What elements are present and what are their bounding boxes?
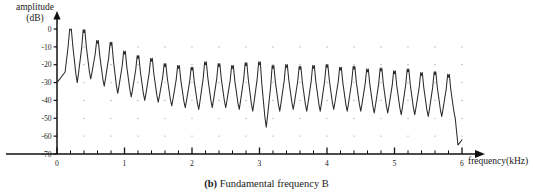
grid-dot — [434, 64, 435, 65]
y-tick-label: -70 — [41, 150, 51, 159]
y-tick-label: -30 — [41, 78, 51, 87]
grid-dot — [461, 64, 462, 65]
grid-dot — [137, 82, 138, 83]
grid-dot — [110, 100, 111, 101]
grid-dot — [380, 64, 381, 65]
x-tick-label: 5 — [393, 159, 397, 168]
grid-dot — [326, 135, 327, 136]
grid-dot — [137, 135, 138, 136]
grid-dot — [218, 118, 219, 119]
grid-dot — [353, 135, 354, 136]
grid-dot — [407, 64, 408, 65]
grid-dot — [434, 135, 435, 136]
grid-dot — [164, 118, 165, 119]
grid-dot — [218, 135, 219, 136]
grid-dot — [434, 100, 435, 101]
grid-dot — [218, 82, 219, 83]
grid-dot — [83, 64, 84, 65]
x-tick-label: 4 — [325, 159, 329, 168]
grid-dot — [83, 82, 84, 83]
grid-dot — [191, 135, 192, 136]
grid-dot — [326, 118, 327, 119]
grid-dot — [110, 135, 111, 136]
grid-dot — [380, 46, 381, 47]
grid-dot — [461, 118, 462, 119]
spectrum-plot: 0-10-20-30-40-50-60-700123456 — [0, 0, 533, 196]
figure-container: amplitude (dB) frequency(kHz) (b) Fundam… — [0, 0, 533, 196]
grid-dot — [191, 118, 192, 119]
grid-dot — [218, 100, 219, 101]
grid-dot — [299, 64, 300, 65]
grid-dot — [353, 82, 354, 83]
grid-dot — [353, 100, 354, 101]
grid-dot — [110, 82, 111, 83]
x-axis-arrow-icon — [475, 150, 485, 158]
grid-dot — [110, 46, 111, 47]
grid-dot — [326, 82, 327, 83]
grid-dot — [407, 135, 408, 136]
grid-dot — [353, 64, 354, 65]
y-tick-label: -60 — [41, 132, 51, 141]
grid-dot — [83, 135, 84, 136]
grid-dot — [83, 46, 84, 47]
x-tick-label: 1 — [123, 159, 127, 168]
grid-dot — [272, 82, 273, 83]
grid-dot — [272, 100, 273, 101]
grid-dot — [272, 46, 273, 47]
grid-dot — [299, 135, 300, 136]
grid-dot — [83, 100, 84, 101]
spectrum-curve — [57, 29, 462, 145]
grid-dot — [83, 118, 84, 119]
grid-dot — [380, 135, 381, 136]
grid-dot — [299, 46, 300, 47]
x-tick-label: 2 — [190, 159, 194, 168]
y-tick-label: -10 — [41, 43, 51, 52]
y-tick-label: 0 — [48, 25, 52, 34]
grid-dot — [434, 82, 435, 83]
grid-dot — [407, 118, 408, 119]
grid-dot — [326, 46, 327, 47]
grid-dot — [461, 135, 462, 136]
grid-dot — [191, 46, 192, 47]
grid-dot — [245, 82, 246, 83]
grid-dot — [164, 46, 165, 47]
grid-dot — [299, 118, 300, 119]
grid-dot — [434, 118, 435, 119]
grid-dot — [272, 118, 273, 119]
grid-dot — [164, 135, 165, 136]
grid-dot — [380, 82, 381, 83]
grid-dot — [110, 64, 111, 65]
grid-dot — [272, 135, 273, 136]
grid-dot — [245, 100, 246, 101]
grid-dot — [407, 82, 408, 83]
grid-dot — [353, 46, 354, 47]
y-tick-label: -20 — [41, 60, 51, 69]
grid-dot — [137, 64, 138, 65]
grid-dot — [326, 100, 327, 101]
grid-dot — [380, 100, 381, 101]
y-tick-label: -40 — [41, 96, 51, 105]
y-axis-arrow-icon — [53, 11, 60, 20]
grid-dot — [137, 100, 138, 101]
grid-dot — [299, 100, 300, 101]
y-tick-label: -50 — [41, 114, 51, 123]
x-tick-label: 6 — [460, 159, 464, 168]
grid-dot — [191, 82, 192, 83]
grid-dot — [245, 118, 246, 119]
grid-dot — [191, 64, 192, 65]
grid-dot — [461, 46, 462, 47]
grid-dot — [191, 100, 192, 101]
grid-dot — [407, 100, 408, 101]
grid-dot — [380, 118, 381, 119]
x-tick-label: 0 — [55, 159, 59, 168]
grid-dot — [137, 118, 138, 119]
grid-dot — [407, 46, 408, 47]
grid-dot — [461, 100, 462, 101]
grid-dot — [245, 135, 246, 136]
grid-dot — [218, 46, 219, 47]
grid-dot — [245, 46, 246, 47]
grid-dot — [164, 82, 165, 83]
grid-dot — [137, 46, 138, 47]
grid-dot — [164, 100, 165, 101]
grid-dot — [461, 82, 462, 83]
